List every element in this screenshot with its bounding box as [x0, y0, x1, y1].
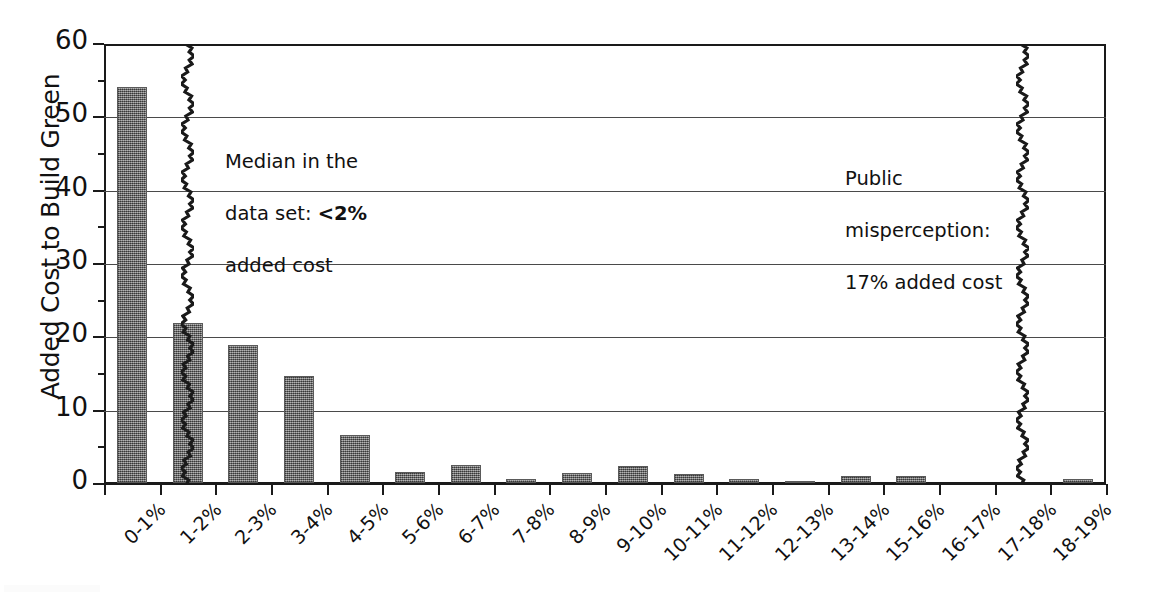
x-axis-tick-labels: 0-1%1-2%2-3%3-4%4-5%5-6%6-7%7-8%8-9%9-10…	[104, 484, 1106, 603]
x-tick-label: 8-9%	[564, 498, 614, 548]
bar	[506, 479, 536, 483]
misperception-annotation: Public misperception: 17% added cost	[845, 140, 1002, 296]
y-minor-tick-mark	[98, 300, 104, 302]
x-tick-label: 3-4%	[286, 498, 336, 548]
y-tick-label: 20	[26, 320, 88, 346]
misperception-annotation-line3: 17% added cost	[845, 271, 1002, 294]
x-tick-mark	[1106, 484, 1108, 495]
x-tick-label: 18-19%	[1048, 498, 1115, 565]
y-tick-mark	[93, 263, 104, 265]
y-tick-mark	[93, 116, 104, 118]
x-tick-label: 17-18%	[993, 498, 1060, 565]
bar	[785, 481, 815, 483]
median-annotation-line2-bold: <2%	[318, 202, 367, 225]
x-tick-label: 7-8%	[508, 498, 558, 548]
x-tick-label: 16-17%	[937, 498, 1004, 565]
x-tick-label: 11-12%	[714, 498, 781, 565]
gridline	[104, 117, 1106, 118]
misperception-annotation-line1: Public	[845, 167, 903, 190]
x-tick-label: 5-6%	[397, 498, 447, 548]
y-axis-tick-labels: 6050403020100	[26, 0, 88, 603]
y-minor-tick-mark	[98, 373, 104, 375]
y-tick-mark	[93, 483, 104, 485]
y-tick-label: 30	[26, 247, 88, 273]
bar	[228, 345, 258, 483]
bar	[117, 87, 147, 483]
bar	[395, 472, 425, 483]
scan-artifact	[4, 585, 100, 592]
bar	[340, 435, 370, 483]
gridline	[104, 337, 1106, 338]
y-tick-label: 0	[26, 467, 88, 493]
bar	[1063, 479, 1093, 483]
y-minor-tick-mark	[98, 446, 104, 448]
y-minor-tick-mark	[98, 80, 104, 82]
bar	[173, 323, 203, 483]
bar	[729, 479, 759, 483]
bar	[562, 473, 592, 483]
y-tick-label: 60	[26, 27, 88, 53]
y-tick-mark	[93, 336, 104, 338]
bar	[841, 476, 871, 483]
median-annotation: Median in the data set: <2% added cost	[225, 123, 367, 279]
y-tick-label: 10	[26, 394, 88, 420]
y-tick-label: 40	[26, 174, 88, 200]
x-tick-label: 2-3%	[230, 498, 280, 548]
misperception-annotation-line2: misperception:	[845, 219, 991, 242]
x-tick-label: 13-14%	[826, 498, 893, 565]
x-tick-label: 12-13%	[770, 498, 837, 565]
x-tick-label: 6-7%	[453, 498, 503, 548]
y-minor-tick-mark	[98, 153, 104, 155]
bar	[451, 465, 481, 483]
y-tick-label: 50	[26, 100, 88, 126]
bar	[284, 376, 314, 483]
bar	[896, 476, 926, 483]
x-tick-label: 15-16%	[881, 498, 948, 565]
x-tick-label: 1-2%	[175, 498, 225, 548]
plot-border-top	[104, 44, 1106, 46]
y-tick-mark	[93, 190, 104, 192]
median-annotation-line2-prefix: data set:	[225, 202, 318, 225]
bar-chart: Added Cost to Build Green 6050403020100 …	[0, 0, 1149, 603]
median-annotation-line3: added cost	[225, 254, 333, 277]
bar	[674, 474, 704, 483]
x-tick-label: 0-1%	[119, 498, 169, 548]
bar	[618, 466, 648, 483]
x-tick-label: 10-11%	[659, 498, 726, 565]
median-annotation-line1: Median in the	[225, 150, 358, 173]
y-tick-mark	[93, 43, 104, 45]
y-minor-tick-mark	[98, 226, 104, 228]
x-tick-label: 4-5%	[342, 498, 392, 548]
y-tick-mark	[93, 410, 104, 412]
